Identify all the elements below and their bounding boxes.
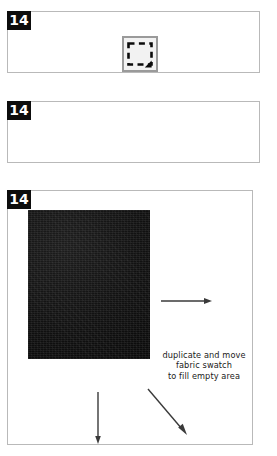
annotation-line-2: fabric swatch <box>158 360 250 370</box>
step-badge: 14 <box>7 101 31 120</box>
step-panel-move: 14 <box>7 101 260 163</box>
step-panel-marquee: 14 <box>7 11 260 73</box>
arrow-diagonal-icon <box>146 388 192 436</box>
arrow-right-icon <box>160 292 212 304</box>
instruction-sheet: 14 14 14 <box>0 0 277 456</box>
annotation-caption: duplicate and move fabric swatch to fill… <box>158 350 250 381</box>
annotation-line-1: duplicate and move <box>158 350 250 360</box>
step-badge: 14 <box>7 190 31 209</box>
annotation-line-3: to fill empty area <box>158 371 250 381</box>
arrow-down-icon <box>92 392 104 444</box>
fabric-swatch[interactable] <box>28 210 150 359</box>
step-badge: 14 <box>7 11 31 30</box>
rectangular-marquee-tool-icon[interactable] <box>122 36 158 72</box>
